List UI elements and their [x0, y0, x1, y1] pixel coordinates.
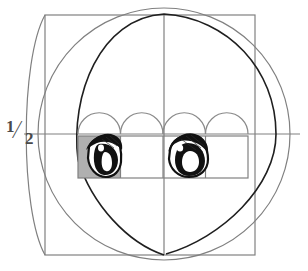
- fraction-slash: ⁄: [15, 117, 18, 142]
- face-proportion-diagram: 1 ⁄ 2: [0, 0, 308, 271]
- eye-arc-1: [78, 113, 121, 134]
- eye-arc-2: [121, 113, 164, 134]
- eye-arc-row: [78, 113, 248, 134]
- eye-arc-3: [163, 113, 206, 134]
- eye-arc-4: [206, 113, 249, 134]
- right-eye-specular: [177, 144, 183, 151]
- fraction-denominator: 2: [25, 130, 34, 147]
- left-eye-specular: [98, 145, 104, 152]
- fraction-numerator: 1: [6, 118, 15, 135]
- right-eye: [168, 133, 208, 177]
- right-eye-highlight: [182, 151, 199, 172]
- construction-guides: [24, 8, 300, 260]
- half-fraction-label: 1 ⁄ 2: [5, 117, 49, 151]
